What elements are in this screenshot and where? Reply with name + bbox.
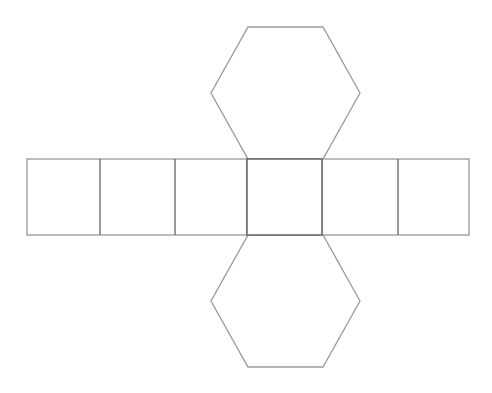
bottom-hexagon-face [211,235,360,367]
hexagonal-prism-net [0,0,492,393]
net-canvas [0,0,492,393]
top-hexagon-face [211,27,360,159]
center-square-face [247,159,322,235]
